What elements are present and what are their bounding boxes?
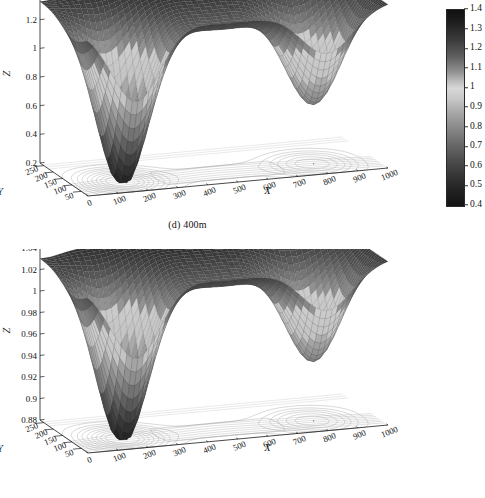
colorbar-gradient-400m: [446, 9, 465, 207]
colorbar-tick-label: 0.4: [464, 200, 482, 210]
colorbar-tick-mark: [464, 146, 468, 147]
x-tick-label: 400: [202, 441, 218, 455]
colorbar-tick-mark: [464, 9, 468, 10]
colorbar-tick-label: 0.9: [464, 102, 482, 112]
colorbar-tick-label: 0.7: [464, 141, 482, 151]
x-tick-label: 200: [142, 190, 158, 204]
colorbar-tick-text: 1.4: [470, 3, 482, 13]
colorbar-tick-label: 1.1: [464, 63, 482, 73]
colorbar-tick-text: 1.3: [470, 23, 482, 33]
x-axis-title: X: [263, 185, 271, 196]
colorbar-tick-mark: [464, 28, 468, 29]
x-tick-label: 300: [172, 187, 188, 201]
colorbar-tick-text: 1.2: [470, 42, 482, 52]
colorbar-tick-text: 0.5: [470, 180, 482, 190]
x-tick-label: 100: [112, 193, 128, 207]
surface-plot-500m: 01002003004005006007008009001000X2502001…: [0, 249, 445, 498]
y-axis-title: Y: [0, 186, 4, 197]
z-tick-label: 1.02: [21, 265, 37, 275]
surface-plot-400m: 01002003004005006007008009001000X2502001…: [0, 0, 445, 249]
z-tick-label: 1: [33, 286, 38, 296]
colorbar-tick-mark: [464, 107, 468, 108]
z-tick-label: 0.98: [21, 308, 37, 318]
colorbar-tick-text: 1: [470, 82, 475, 92]
z-tick-label: 0.94: [21, 351, 37, 361]
panel-caption-400m: (d) 400m: [0, 219, 430, 230]
colorbar-tick-mark: [464, 67, 468, 68]
z-tick-label: 1.04: [21, 249, 37, 253]
x-tick-label: 1000: [380, 424, 400, 440]
colorbar-tick-mark: [464, 48, 468, 49]
x-tick-label: 700: [292, 433, 308, 447]
z-tick-label: 0.9: [26, 394, 38, 404]
colorbar-tick-text: 0.9: [470, 101, 482, 111]
colorbar-tick-text: 0.8: [470, 121, 482, 131]
colorbar-400m: 1.41.31.21.110.90.80.70.60.50.4: [446, 9, 465, 207]
colorbar-tick-mark: [464, 87, 468, 88]
colorbar-tick-label: 1: [464, 83, 475, 93]
z-tick-label: 1.2: [26, 15, 37, 25]
z-tick-label: 0.4: [26, 129, 38, 139]
x-tick-label: 900: [352, 170, 368, 184]
z-tick-label: 0.8: [26, 72, 38, 82]
colorbar-ticks-400m: 1.41.31.21.110.90.80.70.60.50.4: [464, 9, 485, 207]
x-tick-label: 300: [172, 444, 188, 458]
x-tick-label: 800: [322, 173, 338, 187]
z-tick-label: 0.2: [26, 158, 37, 168]
colorbar-tick-text: 0.4: [470, 199, 482, 209]
panel-400m: 01002003004005006007008009001000X2502001…: [0, 0, 485, 249]
colorbar-tick-mark: [464, 185, 468, 186]
z-tick-label: 1: [33, 43, 38, 53]
colorbar-tick-mark: [464, 205, 468, 206]
y-tick-label: 50: [63, 190, 75, 202]
x-tick-label: 500: [232, 439, 248, 453]
x-tick-label: 100: [112, 450, 128, 464]
x-tick-label: 0: [86, 454, 94, 465]
z-tick-label: 0.6: [26, 101, 38, 111]
x-tick-label: 0: [86, 197, 94, 208]
z-tick-label: 0.92: [21, 372, 37, 382]
colorbar-tick-text: 1.1: [470, 62, 482, 72]
colorbar-tick-label: 0.6: [464, 161, 482, 171]
x-tick-label: 500: [232, 182, 248, 196]
y-axis-title: Y: [0, 443, 4, 454]
colorbar-tick-mark: [464, 126, 468, 127]
colorbar-tick-text: 0.6: [470, 160, 482, 170]
x-axis-title: X: [263, 442, 271, 453]
z-axis-title: Z: [1, 70, 12, 76]
colorbar-tick-mark: [464, 165, 468, 166]
colorbar-tick-label: 0.5: [464, 181, 482, 191]
y-tick-label: 50: [63, 447, 75, 459]
z-axis-title: Z: [1, 327, 12, 333]
colorbar-tick-label: 1.4: [464, 4, 482, 14]
x-tick-label: 700: [292, 176, 308, 190]
x-tick-label: 400: [202, 184, 218, 198]
z-tick-label: 0.96: [21, 329, 37, 339]
figure-page: 01002003004005006007008009001000X2502001…: [0, 0, 485, 498]
colorbar-tick-label: 1.2: [464, 43, 482, 53]
x-tick-label: 1000: [380, 167, 400, 183]
x-tick-label: 800: [322, 430, 338, 444]
colorbar-tick-text: 0.7: [470, 140, 482, 150]
colorbar-tick-label: 1.3: [464, 24, 482, 34]
z-tick-label: 0.88: [21, 415, 37, 425]
panel-500m: 01002003004005006007008009001000X2502001…: [0, 249, 485, 498]
colorbar-tick-label: 0.8: [464, 122, 482, 132]
x-tick-label: 900: [352, 427, 368, 441]
x-tick-label: 200: [142, 447, 158, 461]
